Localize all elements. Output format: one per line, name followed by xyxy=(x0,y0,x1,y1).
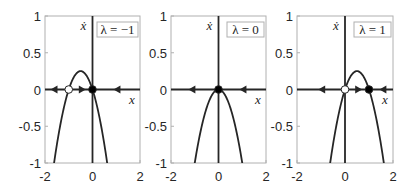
bifurcation-figure: -1-0.500.51-202ẋxλ = −1 -1-0.500.51-202ẋ… xyxy=(0,0,412,191)
x-tick-label: -2 xyxy=(39,169,51,184)
legend-label: λ = −1 xyxy=(101,22,135,37)
y-tick-label: -0.5 xyxy=(271,119,293,134)
y-tick-label: 0 xyxy=(160,83,167,98)
y-tick-label: 0.5 xyxy=(23,46,41,61)
stable-fixed-point xyxy=(215,86,223,94)
legend-label: λ = 1 xyxy=(359,22,386,37)
y-tick-label: -0.5 xyxy=(19,119,41,134)
y-tick-label: -0.5 xyxy=(145,119,167,134)
x-axis-label: x xyxy=(254,92,261,107)
y-tick-label: 1 xyxy=(160,9,167,24)
x-axis-label: x xyxy=(128,92,135,107)
legend-label: λ = 0 xyxy=(232,22,259,37)
x-tick-label: 0 xyxy=(89,169,96,184)
stable-fixed-point xyxy=(89,86,97,94)
x-tick-label: 2 xyxy=(389,169,396,184)
y-tick-label: 0 xyxy=(286,83,293,98)
y-tick-label: 1 xyxy=(34,9,41,24)
x-tick-label: 2 xyxy=(136,169,143,184)
unstable-fixed-point xyxy=(65,86,73,94)
y-tick-label: 0.5 xyxy=(275,46,293,61)
stable-fixed-point xyxy=(365,86,373,94)
x-tick-label: 2 xyxy=(262,169,269,184)
y-axis-label: ẋ xyxy=(332,18,339,33)
x-tick-label: -2 xyxy=(291,169,303,184)
panel-lambda-0: -1-0.500.51-202ẋxλ = 0 xyxy=(145,9,270,191)
x-tick-label: 0 xyxy=(341,169,348,184)
y-tick-label: 0 xyxy=(34,83,41,98)
y-axis-label: ẋ xyxy=(206,18,213,33)
panel-lambda-neg1: -1-0.500.51-202ẋxλ = −1 xyxy=(19,9,144,191)
x-axis-label: x xyxy=(381,92,388,107)
y-tick-label: 0.5 xyxy=(149,46,167,61)
unstable-fixed-point xyxy=(341,86,349,94)
x-tick-label: 0 xyxy=(215,169,222,184)
panel-lambda-1: -1-0.500.51-202ẋxλ = 1 xyxy=(271,9,397,191)
x-tick-label: -2 xyxy=(165,169,177,184)
y-axis-label: ẋ xyxy=(80,18,87,33)
y-tick-label: 1 xyxy=(286,9,293,24)
